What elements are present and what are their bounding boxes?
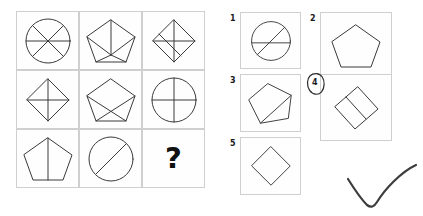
option-3[interactable] xyxy=(240,74,301,132)
option-1-frame[interactable] xyxy=(240,12,301,69)
circle-diagonal-horizontal-icon xyxy=(247,17,295,65)
option-4[interactable] xyxy=(320,74,392,141)
pentagon-plain-icon xyxy=(329,21,383,71)
option-4-frame[interactable] xyxy=(320,74,392,141)
pentagon-five-spokes-icon xyxy=(84,15,138,67)
option-number-2: 2 xyxy=(310,15,316,23)
matrix-grid: ? xyxy=(16,11,205,188)
option-1[interactable] xyxy=(240,12,301,69)
pentagon-tilted-diagonal-icon xyxy=(245,78,297,128)
pentagon-x-icon xyxy=(84,74,138,126)
matrix-cell-r1c1[interactable] xyxy=(16,11,79,70)
option-5-frame[interactable] xyxy=(240,137,301,195)
pentagon-single-line-icon xyxy=(21,133,75,185)
circle-six-sectors-icon xyxy=(22,15,74,67)
answer-options: 1 2 3 xyxy=(228,0,423,216)
circle-single-diagonal-icon xyxy=(85,133,137,185)
matrix-cell-r2c3[interactable] xyxy=(142,70,205,129)
circle-cross-icon xyxy=(148,74,200,126)
option-number-5: 5 xyxy=(230,140,236,148)
diamond-tilted-single-line-icon xyxy=(328,81,384,135)
matrix-cell-r3c3-missing[interactable]: ? xyxy=(142,129,205,188)
matrix-cell-r1c3[interactable] xyxy=(142,11,205,70)
question-mark: ? xyxy=(165,144,182,173)
matrix-cell-r3c1[interactable] xyxy=(16,129,79,188)
matrix-cell-r2c2[interactable] xyxy=(79,70,142,129)
diamond-cross-icon xyxy=(23,75,73,125)
option-2-frame[interactable] xyxy=(320,12,392,79)
matrix-reasoning-puzzle: ? 1 2 3 xyxy=(0,0,423,216)
matrix-cell-r3c2[interactable] xyxy=(79,129,142,188)
option-2[interactable] xyxy=(320,12,392,79)
matrix-cell-r2c1[interactable] xyxy=(16,70,79,129)
option-number-4: 4 xyxy=(312,79,318,87)
option-3-frame[interactable] xyxy=(240,74,301,132)
option-5[interactable] xyxy=(240,137,301,195)
matrix-cell-r1c2[interactable] xyxy=(79,11,142,70)
option-number-3: 3 xyxy=(230,77,236,85)
diamond-plain-icon xyxy=(247,142,295,190)
option-number-1: 1 xyxy=(230,15,236,23)
diamond-three-dividers-icon xyxy=(149,16,199,66)
